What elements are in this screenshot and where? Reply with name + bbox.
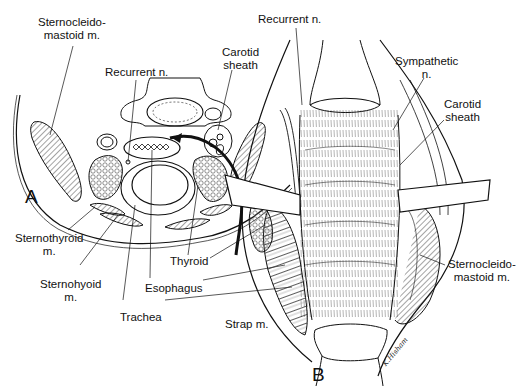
panel-label-b: B xyxy=(312,364,325,386)
label-a-esophagus: Esophagus xyxy=(145,282,203,295)
label-a-carotid-sheath: Carotid sheath xyxy=(222,46,259,72)
label-b-sternocleidomastoid: Sternocleido- mastoid m. xyxy=(448,258,516,284)
label-b-strap-m: Strap m. xyxy=(225,318,268,331)
label-b-carotid-sheath: Carotid sheath xyxy=(444,98,481,124)
label-b-sympathetic-n: Sympathetic n. xyxy=(395,55,458,81)
label-a-sternocleidomastoid: Sternocleido- mastoid m. xyxy=(38,16,106,42)
label-a-recurrent-n: Recurrent n. xyxy=(105,66,168,79)
label-b-recurrent-n: Recurrent n. xyxy=(258,13,321,26)
label-a-sternohyoid: Sternohyoid m. xyxy=(40,278,101,304)
label-a-thyroid: Thyroid xyxy=(170,255,208,268)
panel-label-a: A xyxy=(25,186,38,208)
panel-b-operative-view xyxy=(225,40,490,386)
label-a-trachea: Trachea xyxy=(120,311,162,324)
anatomy-figure: A B Sternocleido- mastoid m. Recurrent n… xyxy=(0,0,532,386)
label-a-sternothyroid: Sternothyroid m. xyxy=(15,232,83,258)
